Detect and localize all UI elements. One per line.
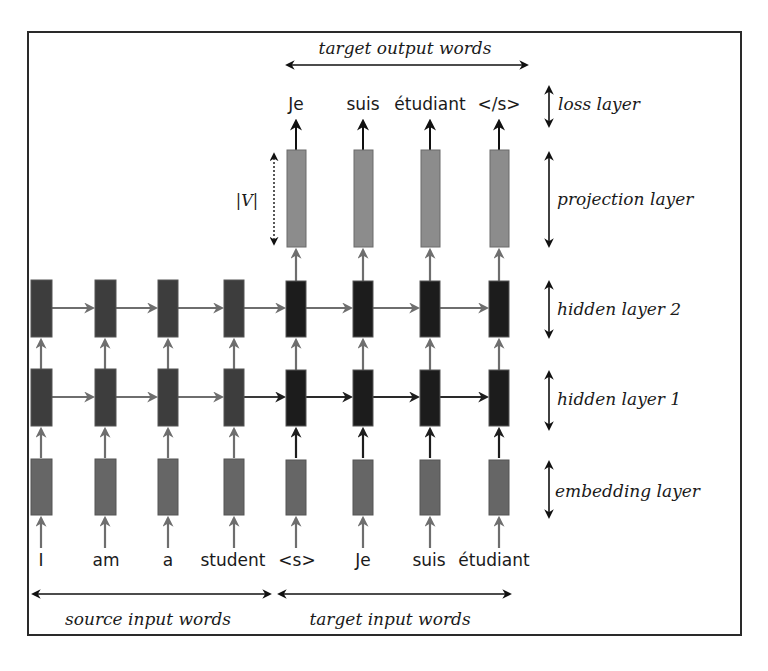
target-hidden2-box: [420, 281, 440, 337]
input-word: Je: [354, 550, 370, 570]
output-word: étudiant: [394, 94, 466, 114]
projection-box: [490, 150, 509, 247]
target-output-words: Je suis étudiant </s>: [287, 94, 520, 114]
embedding-box: [420, 460, 440, 515]
source-hidden2-box: [224, 280, 244, 337]
projection-box: [354, 150, 373, 247]
input-word: am: [93, 550, 120, 570]
target-hidden2-box: [489, 281, 509, 337]
input-word: suis: [412, 550, 445, 570]
seq2seq-diagram: target output words Je suis étudiant </s…: [0, 0, 768, 671]
embedding-layer: [31, 459, 509, 515]
input-word: a: [163, 550, 173, 570]
input-to-embedding-arrows: [41, 518, 499, 548]
embedding-box: [224, 459, 244, 515]
input-word: étudiant: [458, 550, 530, 570]
target-hidden1-box: [489, 370, 509, 426]
embedding-box: [286, 460, 306, 515]
embedding-box: [158, 459, 178, 515]
input-word: <s>: [278, 550, 315, 570]
hidden2-to-projection-arrows: [296, 250, 499, 281]
embedding-box: [353, 460, 373, 515]
projection-layer-label: projection layer: [557, 189, 694, 209]
vocab-size-label: |V|: [236, 191, 258, 210]
embedding-layer-label: embedding layer: [555, 481, 701, 501]
target-output-words-label: target output words: [319, 38, 492, 58]
loss-layer-label: loss layer: [558, 94, 641, 114]
target-hidden1-box: [353, 370, 373, 426]
embedding-box: [95, 459, 116, 515]
hidden1-to-hidden2-arrows: [41, 340, 499, 370]
projection-box: [421, 150, 440, 247]
embedding-box: [489, 460, 509, 515]
input-word: student: [201, 550, 266, 570]
hidden-layer-1-label: hidden layer 1: [557, 389, 681, 409]
source-hidden1-box: [224, 369, 244, 426]
target-hidden2-box: [353, 281, 373, 337]
embedding-to-hidden1-arrows: [41, 429, 499, 458]
output-word: Je: [287, 94, 303, 114]
projection-box: [287, 150, 306, 247]
projection-to-output-arrows: [296, 121, 499, 150]
projection-layer: [287, 150, 509, 247]
output-word: suis: [346, 94, 379, 114]
source-hidden1-box: [95, 369, 116, 426]
embedding-box: [31, 459, 52, 515]
source-hidden2-box: [158, 280, 178, 337]
source-hidden1-box: [158, 369, 178, 426]
input-word: I: [38, 550, 43, 570]
source-hidden2-box: [95, 280, 116, 337]
target-hidden1-box: [420, 370, 440, 426]
source-hidden1-box: [31, 369, 52, 426]
target-hidden1-box: [286, 370, 306, 426]
source-hidden2-box: [31, 280, 52, 337]
hidden-layer-2-label: hidden layer 2: [557, 299, 681, 319]
target-hidden2-box: [286, 281, 306, 337]
source-input-words: I am a student: [38, 550, 265, 570]
output-word: </s>: [477, 94, 520, 114]
target-input-words-label: target input words: [309, 609, 471, 629]
source-input-words-label: source input words: [65, 609, 231, 629]
target-input-words: <s> Je suis étudiant: [278, 550, 530, 570]
